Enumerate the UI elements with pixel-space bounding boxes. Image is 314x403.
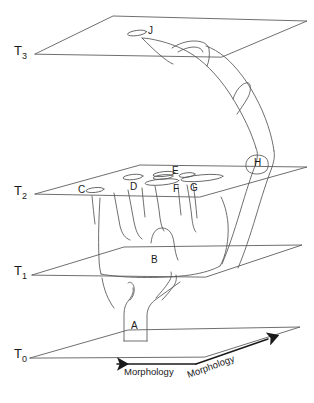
node-label-F: F xyxy=(173,184,179,194)
node-label-A: A xyxy=(131,321,138,331)
section-C xyxy=(86,187,104,194)
time-label-T0: T0 xyxy=(14,347,27,364)
section-G2 xyxy=(179,172,195,178)
stipe-4 xyxy=(155,186,164,231)
node-label-J: J xyxy=(148,26,153,36)
branch-left-descend xyxy=(102,278,114,308)
trunk-root-A-right xyxy=(147,282,180,341)
side-branch-right xyxy=(233,83,250,114)
node-label-G: G xyxy=(190,183,198,193)
section-G xyxy=(181,173,223,183)
diagram-canvas: T3 T2 T1 T0 J C D E F G H B A Morphology… xyxy=(0,0,314,403)
stipe-2 xyxy=(128,190,142,239)
morphology-label-left: Morphology xyxy=(124,367,174,377)
thin-branch-T3 xyxy=(142,38,173,64)
section-D xyxy=(123,173,143,180)
time-label-T1: T1 xyxy=(14,264,27,281)
time-label-T3: T3 xyxy=(14,44,27,61)
time-label-T2: T2 xyxy=(14,184,27,201)
node-label-E: E xyxy=(172,166,179,176)
body-B-right-wall xyxy=(220,197,228,266)
stipe-1 xyxy=(114,193,130,240)
limb-H-right-edge xyxy=(238,151,274,268)
main-trunk-right xyxy=(206,46,274,151)
trunk-root-A xyxy=(124,288,133,341)
plane-T3 xyxy=(35,16,307,57)
section-J xyxy=(127,29,147,37)
node-label-B: B xyxy=(151,255,158,265)
plane-T1 xyxy=(32,245,302,277)
branchlet-A-right-2 xyxy=(162,275,176,300)
node-label-H: H xyxy=(254,158,261,168)
node-label-C: C xyxy=(78,185,85,195)
upper-fork-inner xyxy=(178,47,203,52)
stipe-3 xyxy=(142,188,145,217)
stipe-C xyxy=(92,196,95,224)
node-label-D: D xyxy=(130,182,137,192)
body-B-left-wall xyxy=(99,198,101,274)
plane-T2 xyxy=(35,165,307,197)
diagram-artwork xyxy=(0,0,314,403)
